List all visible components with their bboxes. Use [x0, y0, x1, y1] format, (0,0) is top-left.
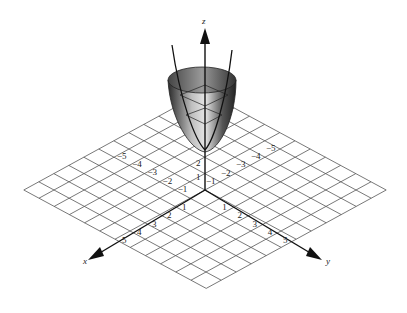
y-tick: 2	[237, 210, 242, 220]
y-axis	[205, 190, 312, 254]
z-tick-1: 1	[196, 172, 201, 182]
grid-line	[84, 157, 266, 255]
grid-line	[24, 190, 206, 288]
y-tick: −2	[163, 176, 173, 186]
y-tick: −1	[178, 184, 188, 194]
x-tick: 5	[122, 235, 127, 245]
y-tick: −3	[147, 167, 157, 177]
y-axis-arrow-icon	[306, 247, 322, 260]
y-tick: 1	[222, 202, 227, 212]
z-axis-arrow-icon	[200, 28, 210, 44]
y-tick: −4	[132, 159, 142, 169]
y-tick: −5	[117, 151, 127, 161]
x-tick: 3	[152, 219, 157, 229]
grid-line	[69, 165, 251, 263]
y-tick: 4	[268, 227, 273, 237]
x-tick: −1	[206, 176, 216, 186]
x-tick: −4	[251, 151, 261, 161]
paraboloid-diagram: x y z 1 2 −5−4−3−2−112345−5−4−3−2−112345	[0, 0, 407, 313]
y-tick: 3	[253, 219, 258, 229]
x-tick: −2	[221, 168, 231, 178]
y-tick: 5	[283, 235, 288, 245]
z-tick-2: 2	[196, 158, 201, 168]
y-axis-label: y	[325, 256, 330, 266]
grid-line	[54, 174, 236, 272]
x-axis-arrow-icon	[88, 247, 104, 260]
x-axis-label: x	[82, 256, 87, 266]
x-tick: 4	[137, 227, 142, 237]
x-tick: 1	[182, 202, 187, 212]
x-tick: −3	[236, 159, 246, 169]
x-tick: 2	[167, 210, 172, 220]
z-axis-label: z	[201, 16, 206, 26]
x-tick: −5	[266, 143, 276, 153]
